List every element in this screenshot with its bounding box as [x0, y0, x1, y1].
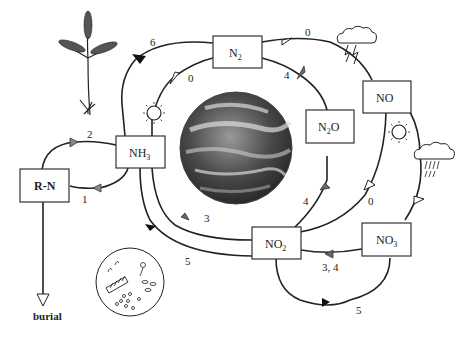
node-n2: N2: [213, 36, 262, 68]
svg-text:NO: NO: [376, 91, 394, 105]
microbes-icon: [96, 248, 164, 316]
node-no: NO: [363, 81, 411, 113]
edge-n2o-to-n2: [262, 58, 327, 110]
edge-label: 4: [303, 195, 309, 207]
edge-label: 5: [356, 304, 362, 316]
plant-icon: [57, 11, 118, 115]
edge-rn-to-nh3: [42, 141, 116, 170]
node-rn: R-N: [20, 169, 69, 202]
edge-label: 1: [82, 193, 88, 205]
edge-label: 0: [305, 26, 311, 38]
edge-label: 2: [87, 128, 93, 140]
sun-icon: [143, 102, 165, 124]
edge-label: 5: [185, 255, 191, 267]
edge-label: 0: [368, 195, 374, 207]
edge-no2-to-n2o: [294, 156, 327, 228]
node-n2o: N2O: [306, 110, 354, 143]
edge-label: 3: [204, 212, 210, 224]
edge-label: 6: [150, 36, 156, 48]
svg-text:R-N: R-N: [34, 179, 56, 193]
nitrogen-cycle-diagram: N2 NO N2O NH3 R-N NO2 NO3 6 0 0 4 2 1 3 …: [0, 0, 476, 337]
node-no2: NO2: [252, 227, 301, 259]
edge-no-to-no3: [405, 112, 421, 220]
node-nh3: NH3: [116, 136, 165, 168]
earth-icon: [180, 92, 292, 204]
edge-label: 3, 4: [322, 261, 339, 273]
arrow-dark: [132, 54, 146, 64]
burial-label: burial: [33, 310, 62, 322]
edge-label: 4: [284, 69, 290, 81]
sun-icon: [388, 121, 410, 143]
node-no3: NO3: [362, 223, 411, 256]
edge-label: 0: [188, 72, 194, 84]
